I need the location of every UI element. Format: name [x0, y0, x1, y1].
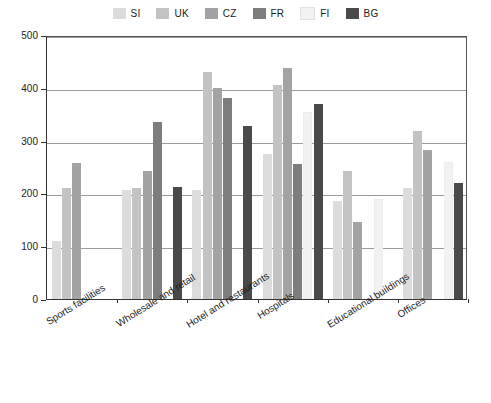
legend-swatch-icon [300, 7, 315, 20]
bar-uk-group-1[interactable] [132, 188, 141, 299]
bar-cz-group-1[interactable] [143, 171, 152, 299]
bar-cz-group-3[interactable] [283, 68, 292, 299]
legend-swatch-icon [253, 8, 266, 19]
plot-area [46, 36, 467, 300]
y-tick-label: 200 [4, 189, 38, 199]
legend-swatch-icon [113, 8, 126, 19]
bar-fi-group-3[interactable] [303, 112, 312, 299]
y-tick-label: 500 [4, 31, 38, 41]
bar-cz-group-2[interactable] [213, 88, 222, 299]
bar-si-group-4[interactable] [333, 201, 342, 299]
y-tick-label: 100 [4, 242, 38, 252]
legend-label: FI [320, 8, 329, 19]
legend-label: CZ [223, 8, 237, 19]
bar-bg-group-5[interactable] [454, 183, 463, 299]
bar-bg-group-2[interactable] [243, 126, 252, 299]
bar-uk-group-0[interactable] [62, 188, 71, 299]
legend-label: UK [174, 8, 188, 19]
bars-layer [47, 37, 466, 299]
legend-entry-si[interactable]: SI [113, 8, 141, 19]
bar-uk-group-2[interactable] [203, 72, 212, 299]
plot-wrapper: 0100200300400500 [0, 26, 491, 316]
x-axis-labels: Sports facilitiesWholesale and retailHot… [0, 300, 491, 372]
legend-entry-cz[interactable]: CZ [205, 8, 237, 19]
bar-fi-group-5[interactable] [444, 162, 453, 299]
bar-uk-group-5[interactable] [413, 131, 422, 299]
legend-swatch-icon [346, 8, 359, 19]
bar-si-group-1[interactable] [122, 190, 131, 299]
bar-fr-group-2[interactable] [223, 98, 232, 299]
bar-fr-group-1[interactable] [153, 122, 162, 299]
legend-label: SI [131, 8, 141, 19]
bar-si-group-0[interactable] [52, 241, 61, 299]
legend-entry-fr[interactable]: FR [253, 8, 285, 19]
legend-label: FR [271, 8, 285, 19]
bar-cz-group-4[interactable] [353, 222, 362, 299]
bar-fr-group-3[interactable] [293, 164, 302, 299]
legend-swatch-icon [156, 8, 169, 19]
legend-entry-fi[interactable]: FI [300, 7, 329, 20]
legend-entry-uk[interactable]: UK [156, 8, 188, 19]
chart-legend: SIUKCZFRFIBG [0, 4, 491, 22]
bar-cz-group-0[interactable] [72, 163, 81, 299]
bar-cz-group-5[interactable] [423, 150, 432, 299]
y-tick-label: 400 [4, 84, 38, 94]
y-tick-label: 300 [4, 137, 38, 147]
bar-uk-group-4[interactable] [343, 171, 352, 299]
bar-chart: SIUKCZFRFIBG 0100200300400500 Sports fac… [0, 0, 491, 403]
bar-fi-group-4[interactable] [374, 199, 383, 299]
bar-bg-group-3[interactable] [314, 104, 323, 299]
legend-entry-bg[interactable]: BG [346, 8, 379, 19]
legend-label: BG [364, 8, 379, 19]
legend-swatch-icon [205, 8, 218, 19]
bar-uk-group-3[interactable] [273, 85, 282, 299]
